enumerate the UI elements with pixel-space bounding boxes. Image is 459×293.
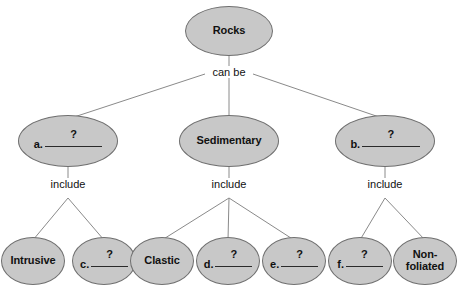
concept-map-diagram: Rocksa.?Sedimentaryb.?Intrusivec.?Clasti… — [0, 0, 459, 293]
node-label: d.? — [204, 252, 252, 270]
node-label: c.? — [80, 252, 128, 270]
edge-include-branch — [228, 198, 229, 240]
relation-label-include-middle: include — [209, 178, 250, 190]
edge-include-branch — [229, 198, 294, 240]
node-label: Sedimentary — [193, 135, 266, 147]
edge-include-branch — [385, 198, 425, 240]
edge-include-branch — [68, 198, 104, 240]
answer-blank: ? — [281, 252, 318, 267]
node-prefix: f. — [337, 259, 344, 271]
node-label: Clastic — [140, 255, 183, 267]
node-label: b.? — [350, 132, 419, 150]
answer-blank: ? — [215, 252, 252, 267]
question-mark: ? — [45, 129, 103, 141]
question-mark: ? — [346, 249, 383, 261]
node-sedimentary-d: d.? — [196, 237, 260, 285]
relation-label-include-right: include — [365, 178, 406, 190]
node-label: e.? — [270, 252, 318, 270]
node-label: f.? — [337, 252, 382, 270]
edge-canbe-branch — [253, 74, 385, 119]
relation-label-can-be: can be — [209, 66, 248, 78]
node-sedimentary: Sedimentary — [179, 115, 279, 167]
node-rock-type-b: b.? — [335, 115, 435, 167]
node-sedimentary-e: e.? — [262, 237, 326, 285]
answer-blank: ? — [45, 132, 103, 147]
node-prefix: b. — [350, 139, 360, 151]
edge-canbe-branch — [68, 74, 205, 119]
node-prefix: a. — [34, 139, 43, 151]
node-prefix: c. — [80, 259, 89, 271]
node-prefix: d. — [204, 259, 214, 271]
node-label: Intrusive — [7, 255, 60, 267]
node-metamorphic-f: f.? — [328, 237, 392, 285]
edge-include-branch — [162, 198, 229, 240]
answer-blank: ? — [91, 252, 128, 267]
answer-blank: ? — [346, 252, 383, 267]
node-prefix: e. — [270, 259, 279, 271]
node-clastic: Clastic — [130, 237, 194, 285]
node-label: Non- foliated — [402, 249, 448, 273]
node-non-foliated: Non- foliated — [393, 237, 457, 285]
edge-include-branch — [33, 198, 68, 240]
node-intrusive: Intrusive — [1, 237, 65, 285]
answer-blank: ? — [362, 132, 420, 147]
question-mark: ? — [91, 249, 128, 261]
node-label: a.? — [34, 132, 102, 150]
node-label: Rocks — [209, 25, 250, 37]
question-mark: ? — [362, 129, 420, 141]
node-igneous-c: c.? — [72, 237, 136, 285]
question-mark: ? — [215, 249, 252, 261]
question-mark: ? — [281, 249, 318, 261]
edge-include-branch — [360, 198, 385, 240]
node-rock-type-a: a.? — [18, 115, 118, 167]
relation-label-include-left: include — [48, 178, 89, 190]
node-rocks: Rocks — [185, 6, 273, 56]
